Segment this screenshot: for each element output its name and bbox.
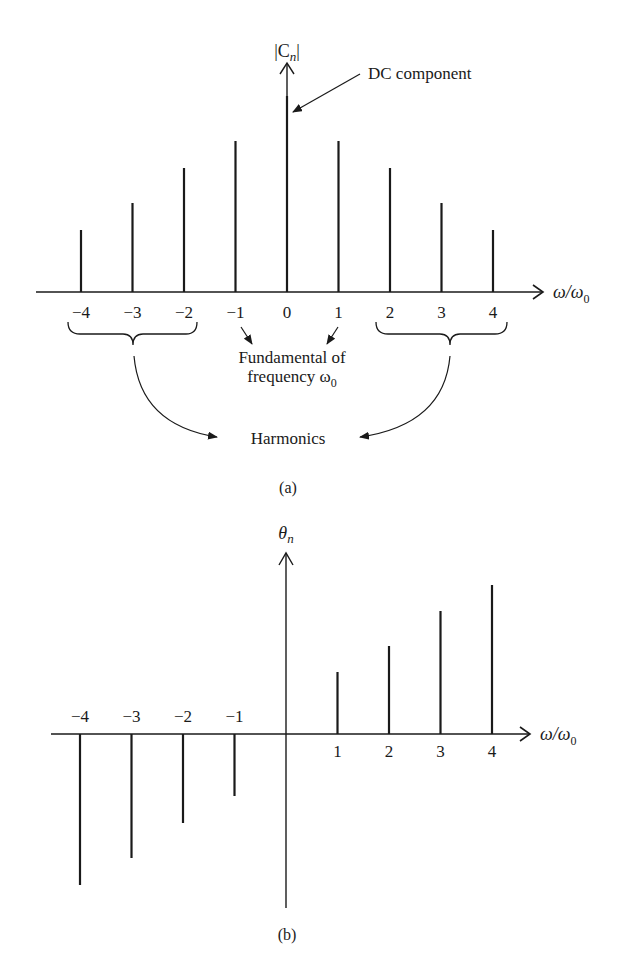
tick-label-a: 3 <box>437 303 446 322</box>
panel-b: −4−3−2−11234 θn ω/ω0 (b) <box>51 523 576 944</box>
x-axis-label-b: ω/ω0 <box>540 724 576 748</box>
tick-label-a: −2 <box>175 303 193 322</box>
fundamental-label-line2: frequency ω0 <box>247 367 336 390</box>
tick-label-a: 0 <box>283 303 292 322</box>
tick-label-b: −4 <box>71 707 90 726</box>
fundamental-arrow-left <box>241 327 252 344</box>
panel-a: −4−3−2−101234 |Cn| ω/ω0 DC component Fun… <box>36 41 589 497</box>
harmonics-label: Harmonics <box>251 429 326 448</box>
tick-label-a: 2 <box>386 303 395 322</box>
tick-label-b: 1 <box>333 742 342 761</box>
tick-label-b: 3 <box>436 742 445 761</box>
tick-label-a: 4 <box>489 303 498 322</box>
fundamental-arrow-right <box>327 327 338 344</box>
tick-label-b: 4 <box>488 742 497 761</box>
fundamental-label-line1: Fundamental of <box>238 348 346 367</box>
tick-label-a: 1 <box>334 303 343 322</box>
tick-label-a: −1 <box>226 303 244 322</box>
tick-label-a: −4 <box>72 303 91 322</box>
tick-label-a: −3 <box>123 303 141 322</box>
dc-arrow <box>293 74 360 112</box>
brace-left <box>68 322 197 345</box>
brace-right <box>376 322 507 345</box>
caption-a: (a) <box>279 479 297 497</box>
stems-a <box>81 96 493 292</box>
tick-label-b: −3 <box>122 707 140 726</box>
tick-label-b: 2 <box>385 742 394 761</box>
harmonics-arrow-right <box>360 356 450 437</box>
dc-component-label: DC component <box>368 64 472 83</box>
tick-label-b: −2 <box>174 707 192 726</box>
caption-b: (b) <box>278 926 297 944</box>
y-axis-label-a: |Cn| <box>274 41 300 64</box>
tick-labels-a: −4−3−2−101234 <box>72 303 498 322</box>
y-axis-label-b: θn <box>278 523 293 546</box>
x-axis-label-a: ω/ω0 <box>553 282 589 306</box>
figure-canvas: −4−3−2−101234 |Cn| ω/ω0 DC component Fun… <box>0 0 617 972</box>
harmonics-arrow-left <box>134 356 217 437</box>
tick-label-b: −1 <box>225 707 243 726</box>
